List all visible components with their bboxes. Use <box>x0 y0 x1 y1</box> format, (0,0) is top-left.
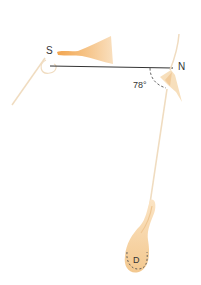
south-fiber <box>12 58 56 105</box>
baseline-s-n <box>50 66 173 68</box>
kinetochore-fiber <box>149 89 167 210</box>
label-north: N <box>178 62 185 72</box>
label-angle: 78° <box>133 81 147 90</box>
label-south: S <box>46 46 53 56</box>
south-cone <box>57 36 113 64</box>
diagram-drawing <box>0 0 201 285</box>
diagram: S N 78° D <box>0 0 201 285</box>
label-d: D <box>133 256 140 265</box>
